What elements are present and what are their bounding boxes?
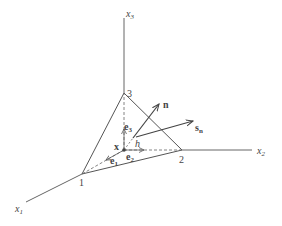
x1-axis-label: x1 [14,203,23,216]
e1-label: e1 [110,155,118,168]
h-label: h [135,138,140,149]
e2-label: e2 [126,151,134,164]
n-label: n [163,99,169,110]
h-distance-line [124,138,133,150]
normal-vector-n [133,104,159,138]
e3-label: e3 [124,121,132,134]
origin-point-label: x [114,141,119,152]
sn-label: sn [195,122,203,135]
vertex-3-label: 3 [127,88,132,99]
edge-3-2 [124,93,182,150]
vertex-1-label: 1 [79,177,84,188]
tetrahedron-diagram: x3 x2 x1 3 2 1 x e3 e2 e1 h n sn [0,0,282,226]
vertex-2-label: 2 [179,154,184,165]
x2-axis-label: x2 [256,145,265,158]
x3-axis-label: x3 [125,8,134,21]
x1-axis [26,174,82,202]
